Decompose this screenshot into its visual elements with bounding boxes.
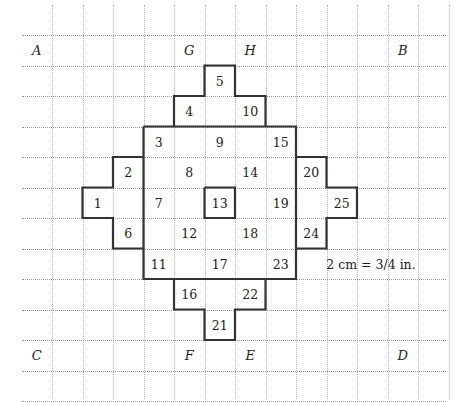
corner-label-e: E (246, 348, 256, 363)
piece-number-16: 16 (181, 287, 197, 302)
piece-number-3: 3 (155, 134, 163, 149)
piece-number-25: 25 (334, 195, 350, 210)
piece-number-23: 23 (273, 256, 289, 271)
piece-number-17: 17 (212, 256, 228, 271)
piece-number-22: 22 (242, 287, 258, 302)
piece-number-21: 21 (212, 317, 228, 332)
left-steps-outline (83, 157, 144, 249)
corner-label-c: C (32, 348, 42, 363)
corner-label-f: F (185, 348, 194, 363)
piece-number-2: 2 (124, 165, 132, 180)
piece-number-19: 19 (273, 195, 289, 210)
piece-number-4: 4 (185, 104, 193, 119)
corner-label-b: B (398, 43, 408, 58)
corner-label-h: H (245, 43, 256, 58)
piece-number-6: 6 (124, 226, 132, 241)
piece-number-9: 9 (216, 134, 224, 149)
corner-label-g: G (184, 43, 194, 58)
piece-number-20: 20 (303, 165, 319, 180)
piece-number-1: 1 (94, 195, 102, 210)
scale-note: 2 cm = 3/4 in. (326, 257, 415, 272)
piece-number-7: 7 (155, 195, 163, 210)
piece-number-11: 11 (151, 256, 167, 271)
piece-number-5: 5 (216, 73, 224, 88)
block-outline (0, 0, 465, 402)
corner-label-d: D (398, 348, 408, 363)
piece-number-12: 12 (181, 226, 197, 241)
piece-number-15: 15 (273, 134, 289, 149)
piece-number-18: 18 (242, 226, 258, 241)
piece-number-14: 14 (242, 165, 258, 180)
piece-number-13: 13 (212, 195, 228, 210)
quilt-grid-diagram: AGHBCFED 1234567891011121314151617181920… (0, 0, 465, 402)
piece-number-8: 8 (185, 165, 193, 180)
piece-number-24: 24 (303, 226, 319, 241)
piece-number-10: 10 (242, 104, 258, 119)
corner-label-a: A (32, 43, 41, 58)
